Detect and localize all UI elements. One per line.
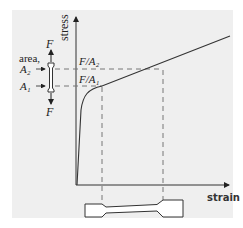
force-top-label: F (45, 37, 54, 51)
force-level-a1-label: F/A₁ (78, 73, 99, 85)
area-a2-label: A₂ (19, 63, 31, 75)
force-level-a2-label: F/A₂ (78, 55, 99, 67)
stress-strain-curve (77, 36, 230, 185)
stress-strain-diagram: stress strain F/A₂ F/A₁ area, A₂ A₁ F F (0, 0, 243, 228)
force-bottom-label: F (45, 105, 54, 119)
stress-strain-figure: stress strain F/A₂ F/A₁ area, A₂ A₁ F F (0, 0, 243, 228)
small-specimen (48, 63, 54, 92)
necked-specimen (85, 200, 183, 217)
dashed-guides (55, 69, 163, 203)
area-a1-label: A₁ (19, 80, 31, 92)
stress-axis-label: stress (57, 14, 71, 41)
strain-axis-label: strain (207, 192, 240, 203)
